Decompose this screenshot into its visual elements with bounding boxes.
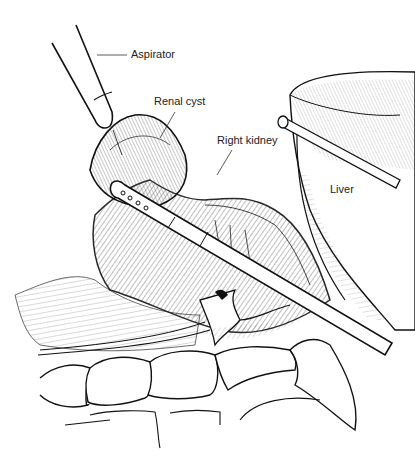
label-right-kidney: Right kidney bbox=[217, 135, 278, 146]
label-aspirator: Aspirator bbox=[131, 49, 175, 60]
label-renal-cyst: Renal cyst bbox=[154, 96, 205, 107]
bowel-loops bbox=[40, 340, 356, 448]
surgical-illustration: Aspirator Renal cyst Right kidney Liver bbox=[0, 0, 415, 457]
line-art bbox=[0, 0, 415, 457]
label-liver: Liver bbox=[330, 184, 354, 195]
